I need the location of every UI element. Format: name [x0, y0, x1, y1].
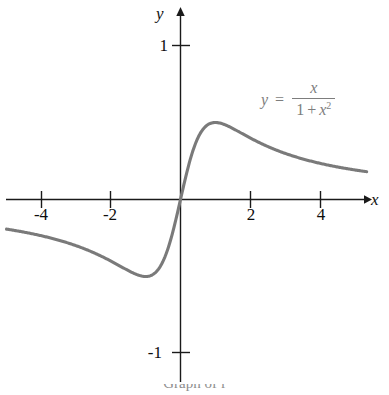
- x-tick-label--4: -4: [26, 206, 56, 223]
- x-tick-label--2: -2: [95, 206, 125, 223]
- caption-strip: Graph of f: [0, 384, 389, 395]
- y-tick-label--1: -1: [132, 344, 162, 361]
- x-tick-label-2: 2: [236, 206, 266, 223]
- equation-equals-sign: =: [275, 92, 288, 108]
- equation-lhs: y: [261, 92, 271, 108]
- y-tick-label-1: 1: [138, 37, 168, 54]
- y-axis-label: y: [156, 5, 164, 22]
- figure-caption: Graph of f: [0, 384, 389, 392]
- plot-canvas: [0, 0, 389, 395]
- denominator-plus-sign: +: [304, 101, 319, 118]
- x-axis-label: x: [371, 191, 379, 208]
- function-graph-figure: x y -4 -2 2 4 1 -1 y = x 1+x2 Graph of f: [0, 0, 389, 395]
- equation-fraction: x 1+x2: [292, 80, 335, 120]
- equation-annotation: y = x 1+x2: [261, 80, 335, 120]
- denominator-exponent: 2: [326, 100, 331, 111]
- x-tick-label-4: 4: [306, 206, 336, 223]
- y-axis-arrowhead: [176, 7, 184, 16]
- equation-denominator: 1+x2: [292, 99, 335, 120]
- equation-numerator: x: [292, 80, 335, 98]
- denominator-one: 1: [296, 101, 304, 118]
